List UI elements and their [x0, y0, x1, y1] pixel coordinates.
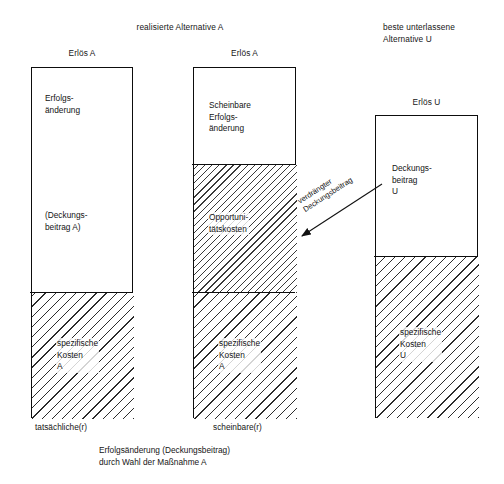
- column-1-bottom-label: tatsächliche(r): [35, 422, 87, 434]
- label-deckungsbeitrag-u: Deckungs- beitrag U: [391, 163, 433, 198]
- column-1-divider: [30, 292, 132, 293]
- displaced-contribution-annotation: verdrängter Deckungsbeitrag: [290, 178, 386, 254]
- group-heading-foregone: beste unterlassene Alternative U: [383, 22, 503, 45]
- label-scheinbare-erfolgsaenderung: Scheinbare Erfolgs- änderung: [208, 100, 252, 135]
- label-spezifische-kosten-a-actual: spezifische Kosten A: [56, 338, 99, 373]
- column-2-bottom-label: scheinbare(r): [213, 422, 262, 434]
- column-3-top-label: Erlös U: [375, 97, 478, 109]
- column-1-top-label: Erlös A: [31, 48, 133, 60]
- group-heading-realized: realisierte Alternative A: [100, 22, 260, 34]
- column-2-divider-upper: [192, 164, 295, 165]
- label-spezifische-kosten-a-apparent: spezifische Kosten A: [218, 338, 261, 373]
- label-spezifische-kosten-u: spezifische Kosten U: [399, 327, 442, 362]
- label-erfolgsaenderung: Erfolgs- änderung: [44, 93, 81, 116]
- column-2-top-label: Erlös A: [193, 48, 296, 60]
- column-3-divider: [374, 256, 477, 257]
- column-3-box: [375, 115, 478, 418]
- column-2-divider-lower: [192, 292, 295, 293]
- diagram-caption: Erfolgsänderung (Deckungsbeitrag) durch …: [99, 444, 230, 468]
- diagram-canvas: realisierte Alternative A beste unterlas…: [0, 0, 504, 484]
- label-opportunitaetskosten: Opportuni- tätskosten: [208, 212, 249, 235]
- label-deckungsbeitrag-a: (Deckungs- beitrag A): [44, 210, 88, 233]
